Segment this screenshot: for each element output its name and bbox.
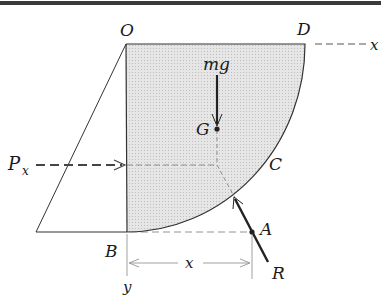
center-of-gravity-point: [214, 126, 219, 131]
label-x-axis: x: [370, 36, 379, 54]
label-C: C: [269, 154, 282, 174]
label-x-dimension: x: [185, 254, 194, 272]
label-y-axis: y: [122, 278, 132, 296]
label-D: D: [296, 19, 311, 39]
label-B: B: [104, 241, 118, 261]
label-mg: mg: [203, 54, 230, 74]
point-A: [249, 229, 254, 234]
label-G: G: [196, 119, 210, 139]
support-slant-edge: [36, 44, 126, 232]
label-R: R: [271, 263, 285, 283]
label-O: O: [120, 20, 134, 40]
label-P-subscript: x: [22, 164, 29, 178]
force-px-arrowhead: [114, 160, 125, 170]
quarter-disk-free-body-diagram: O D x mg G P x C A B x R y: [0, 0, 381, 301]
label-P: P: [7, 153, 21, 174]
top-border: [0, 1, 381, 5]
label-A: A: [258, 219, 272, 239]
